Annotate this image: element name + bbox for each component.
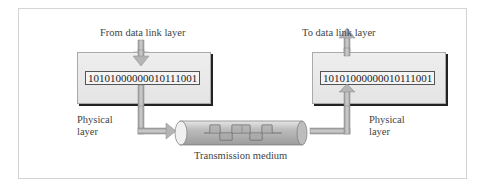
sender-physical-label: Physical <box>77 114 113 126</box>
transmission-pipe <box>175 121 307 145</box>
receiver-physical-label: Physical <box>369 114 405 126</box>
sender-bit-stream: 10101000000010111001 <box>85 71 200 85</box>
from-data-link-layer-label: From data link layer <box>100 27 185 39</box>
sender-layer-label: layer <box>77 126 98 138</box>
to-data-link-layer-label: To data link layer <box>302 27 376 39</box>
transmission-medium-label: Transmission medium <box>194 150 287 162</box>
receiver-bit-stream: 10101000000010111001 <box>320 71 435 85</box>
receiver-layer-label: layer <box>369 126 390 138</box>
